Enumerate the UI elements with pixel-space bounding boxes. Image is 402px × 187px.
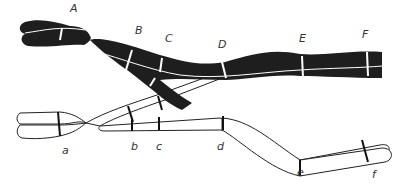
label-d: d <box>217 140 224 153</box>
label-C: C <box>165 32 173 45</box>
label-c: c <box>156 140 162 153</box>
label-F: F <box>362 28 368 41</box>
label-e: e <box>297 166 304 179</box>
lower-chromosome <box>17 74 391 176</box>
label-f: f <box>372 168 376 181</box>
label-b: b <box>131 140 138 153</box>
label-a: a <box>62 144 69 157</box>
label-B: B <box>135 24 143 37</box>
chromosome-diagram <box>0 0 402 187</box>
label-E: E <box>299 32 306 45</box>
upper-chromosome <box>20 20 382 110</box>
label-D: D <box>218 38 226 51</box>
label-A: A <box>70 2 78 15</box>
